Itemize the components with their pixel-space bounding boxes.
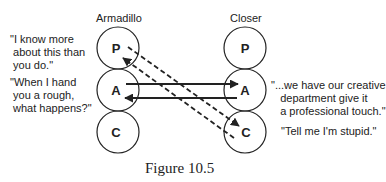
closer-adult-label: A [240, 83, 250, 98]
armadillo-adult-label: A [111, 83, 121, 98]
armadillo-parent-label: P [112, 41, 121, 56]
dashed-arrow-parent-to-child [128, 47, 239, 126]
figure-caption: Figure 10.5 [145, 160, 214, 177]
closer-parent-label: P [241, 41, 250, 56]
armadillo-child-label: C [111, 125, 121, 140]
closer-child-label: C [241, 125, 251, 140]
